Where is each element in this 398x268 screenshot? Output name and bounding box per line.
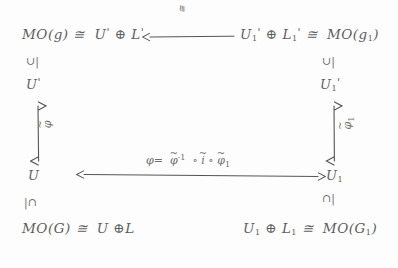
node-bottom-right: U1 ⊕ L1 ≅ MO(G1): [243, 220, 377, 237]
bottom-arrow-label: φ= ~φ-1 ∘ ~i ∘ ~φ1: [146, 153, 230, 169]
membership-mark-left-bottom: |∩: [24, 196, 37, 209]
membership-mark-right-bottom: ∩|: [322, 192, 335, 205]
mo-symbol: MO: [22, 26, 48, 42]
diagram-canvas: MO(g) ≅ U' ⊕ L' U1' ⊕ L1' ≅ MO(g1) ≅ ∪| …: [0, 0, 398, 268]
membership-mark-right-top: ∪|: [322, 55, 335, 68]
top-horizontal-arrow: [150, 36, 234, 37]
left-vertical-arrow-label: ~φ: [44, 118, 52, 131]
node-bottom-left: MO(G) ≅ U ⊕L: [22, 220, 135, 236]
right-vertical-arrow-label: ~φ1: [342, 116, 355, 130]
membership-mark-left-top: ∪|: [26, 55, 39, 68]
top-arrow-label: ≅: [178, 4, 186, 13]
node-top-left: MO(g) ≅ U' ⊕ L': [22, 26, 144, 42]
node-mid-left-upper: U': [26, 76, 41, 92]
node-top-right: U1' ⊕ L1' ≅ MO(g1): [240, 26, 379, 43]
node-mid-right-upper: U1': [320, 76, 341, 93]
left-vertical-arrow: [38, 106, 39, 161]
node-mid-left-lower: U: [28, 168, 39, 183]
bottom-horizontal-arrow: [84, 175, 318, 177]
node-mid-right-lower: U1: [326, 168, 343, 184]
